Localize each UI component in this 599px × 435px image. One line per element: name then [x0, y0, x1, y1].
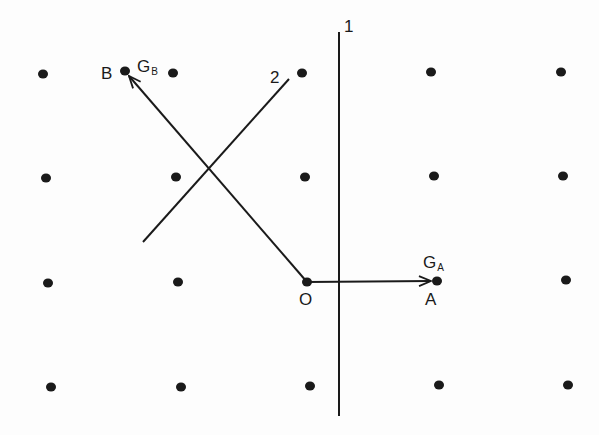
- line-2: [143, 79, 289, 242]
- lattice-point: [171, 173, 181, 182]
- lattice-point: [176, 383, 186, 392]
- vector-OB: [129, 76, 307, 282]
- mirror-lines: [143, 32, 339, 416]
- lattice-point: [429, 172, 439, 181]
- diagram-canvas: [0, 0, 599, 435]
- line-2-label: 2: [270, 69, 279, 86]
- lattice-point: [558, 172, 568, 181]
- g-a-subscript: A: [437, 262, 444, 273]
- point-a-label: A: [425, 291, 436, 308]
- lattice-point: [434, 381, 444, 390]
- lattice-point: [561, 276, 571, 285]
- lattice-point: [38, 70, 48, 79]
- g-b-label: GB: [137, 58, 158, 75]
- lattice-point: [432, 277, 442, 286]
- lattice-point: [305, 382, 315, 391]
- lattice-point: [563, 381, 573, 390]
- g-a-main: G: [423, 253, 436, 272]
- point-b-label: B: [101, 65, 112, 82]
- line-1-label: 1: [344, 18, 353, 35]
- vector-OA: [307, 281, 431, 282]
- lattice-point: [46, 383, 56, 392]
- lattice-point: [173, 278, 183, 287]
- lattice-point: [426, 68, 436, 77]
- lattice-point: [556, 68, 566, 77]
- lattice-diagram: 1 2 B GB O A GA: [0, 0, 599, 435]
- lattice-point: [120, 67, 130, 76]
- lattice-point: [43, 279, 53, 288]
- lattice-points: [38, 67, 573, 392]
- g-b-subscript: B: [151, 66, 158, 77]
- lattice-point: [168, 69, 178, 78]
- g-a-label: GA: [423, 254, 444, 271]
- lattice-point: [300, 173, 310, 182]
- lattice-point: [302, 278, 312, 287]
- origin-label: O: [299, 291, 312, 308]
- lattice-point: [41, 174, 51, 183]
- lattice-point: [297, 69, 307, 78]
- g-b-main: G: [137, 57, 150, 76]
